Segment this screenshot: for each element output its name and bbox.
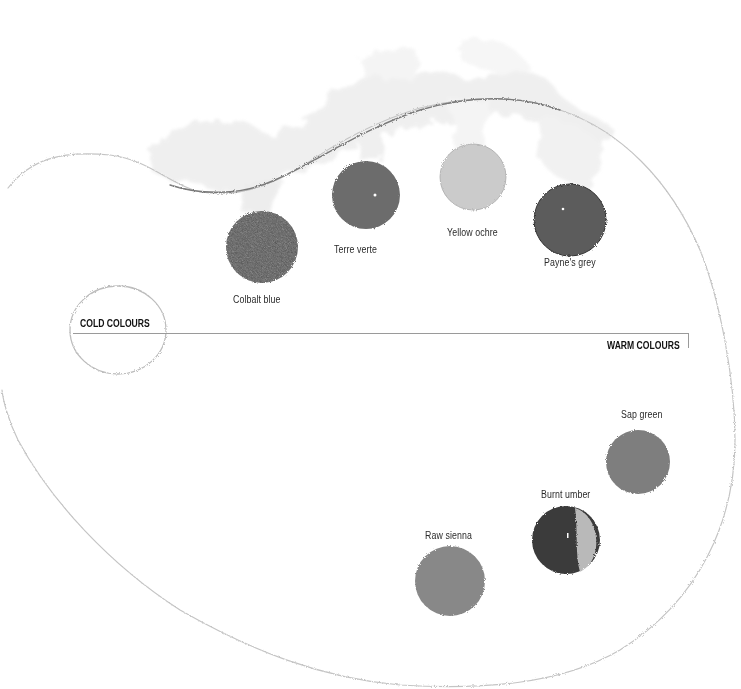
cold-warm-divider xyxy=(73,333,688,334)
palette-diagram: COLD COLOURS WARM COLOURS Colbalt blue T… xyxy=(0,0,741,689)
label-colbalt-blue: Colbalt blue xyxy=(233,294,281,305)
swatch-terre-verte xyxy=(332,161,400,229)
label-yellow-ochre: Yellow ochre xyxy=(447,227,498,238)
divider-end-tick xyxy=(688,333,689,348)
swatch-paynes-grey xyxy=(534,184,606,256)
swatch-colbalt-blue xyxy=(226,211,298,283)
label-sap-green: Sap green xyxy=(621,409,662,420)
swatch-raw-sienna xyxy=(415,546,485,616)
cold-colours-label: COLD COLOURS xyxy=(80,318,150,329)
label-raw-sienna: Raw sienna xyxy=(425,530,472,541)
swatch-yellow-ochre xyxy=(440,144,506,210)
label-terre-verte: Terre verte xyxy=(334,244,377,255)
label-paynes-grey: Payne's grey xyxy=(544,257,596,268)
warm-colours-label: WARM COLOURS xyxy=(607,340,680,351)
label-burnt-umber: Burnt umber xyxy=(541,489,590,500)
swatch-sap-green xyxy=(606,430,670,494)
